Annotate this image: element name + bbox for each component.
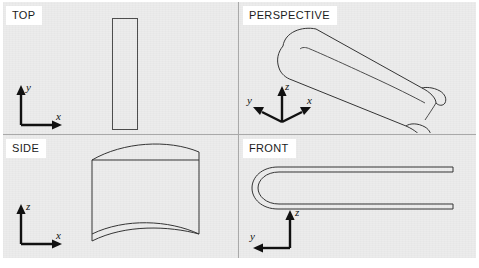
axis-label-x: x <box>306 94 312 106</box>
drawing-plate: y x <box>3 2 476 258</box>
axis-label-z: z <box>284 80 290 92</box>
axis-label-y: y <box>249 230 255 242</box>
view-label-perspective: PERSPECTIVE <box>243 6 337 25</box>
view-label-top: TOP <box>6 6 42 25</box>
multiview-figure: y x <box>0 0 479 268</box>
axis-label-x: x <box>55 229 61 241</box>
view-label-side: SIDE <box>6 139 46 158</box>
axis-label-x: x <box>55 110 61 122</box>
top-view-axes: y x <box>9 80 71 130</box>
view-label-front: FRONT <box>243 139 296 158</box>
perspective-view-axes: z y x <box>244 78 320 132</box>
horizontal-divider <box>3 134 476 135</box>
axis-label-y: y <box>25 81 31 93</box>
side-view-axes: z x <box>9 198 71 250</box>
axis-label-z: z <box>25 200 31 212</box>
front-view-axes: z y <box>244 204 316 256</box>
vertical-divider <box>238 2 239 258</box>
axis-label-z: z <box>294 206 300 218</box>
axis-label-y: y <box>246 94 252 106</box>
